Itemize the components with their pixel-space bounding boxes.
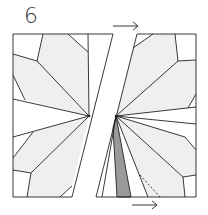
origami-diagram — [0, 0, 208, 215]
left-panel — [13, 34, 113, 197]
arrow-top — [113, 22, 138, 30]
arrow-bottom — [132, 201, 157, 209]
right-panel — [96, 34, 196, 197]
